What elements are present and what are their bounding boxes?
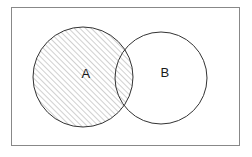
venn-diagram-canvas: A B bbox=[0, 0, 252, 157]
venn-diagram-figure: A B bbox=[0, 0, 252, 157]
set-b-label: B bbox=[161, 65, 170, 80]
set-a-label: A bbox=[82, 66, 91, 81]
